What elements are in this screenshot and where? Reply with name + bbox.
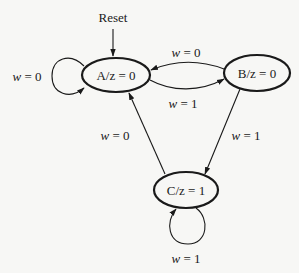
transition-b-to-a-label: w = 0 [171, 45, 200, 60]
state-c: C/z = 1 [154, 172, 218, 208]
reset-label: Reset [99, 10, 128, 25]
state-c-label: C/z = 1 [167, 183, 205, 198]
state-b: B/z = 0 [224, 55, 290, 91]
arc-b-to-a-arrow [151, 62, 224, 70]
transition-a-to-b-label: w = 1 [168, 96, 197, 111]
self-loop-a-arrow [52, 58, 84, 94]
transition-c-to-a-label: w = 0 [100, 128, 129, 143]
transition-b-to-c: w = 1 [205, 89, 261, 174]
transition-a-to-a: w = 0 [12, 58, 84, 94]
self-loop-c-arrow [170, 208, 205, 244]
transition-a-to-b: w = 1 [150, 79, 224, 111]
transition-c-to-c-label: w = 1 [171, 251, 200, 266]
state-a: A/z = 0 [82, 58, 150, 92]
state-a-label: A/z = 0 [96, 68, 135, 83]
transition-b-to-a: w = 0 [151, 45, 224, 70]
state-b-label: B/z = 0 [238, 66, 276, 81]
arc-a-to-b-arrow [150, 79, 224, 89]
reset-transition: Reset [99, 10, 128, 56]
transition-c-to-a: w = 0 [100, 93, 165, 174]
transition-c-to-c: w = 1 [170, 208, 205, 266]
line-c-to-a-arrow [129, 93, 165, 174]
state-diagram: Reset A/z = 0 B/z = 0 C/z = 1 w = 0 w = … [0, 0, 299, 273]
transition-b-to-c-label: w = 1 [231, 128, 260, 143]
transition-a-to-a-label: w = 0 [12, 69, 41, 84]
